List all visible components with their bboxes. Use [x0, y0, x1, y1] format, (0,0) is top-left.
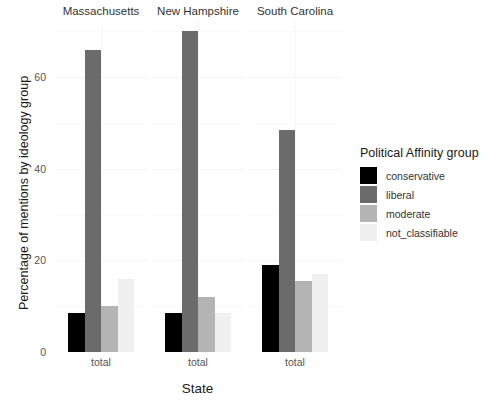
legend-swatch-liberal: [360, 186, 377, 203]
legend-items: conservativeliberalmoderatenot_classifia…: [360, 166, 479, 242]
legend-label: not_classifiable: [386, 227, 458, 239]
panel-plot-area: [55, 22, 147, 352]
bar-not_classifiable: [118, 279, 135, 352]
legend-item-conservative[interactable]: conservative: [360, 166, 479, 185]
legend-swatch-not_classifiable: [360, 224, 377, 241]
panel-new-hampshire: New Hampshiretotal: [152, 22, 244, 352]
bar-conservative: [68, 313, 85, 352]
legend-item-liberal[interactable]: liberal: [360, 185, 479, 204]
legend-item-moderate[interactable]: moderate: [360, 204, 479, 223]
bar-liberal: [182, 31, 199, 352]
legend: Political Affinity group conservativelib…: [360, 146, 479, 242]
faceted-bar-chart: Percentage of mentions by ideology group…: [0, 0, 500, 409]
panel-massachusetts: Massachusettstotal: [55, 22, 147, 352]
panel-strip-label: Massachusetts: [55, 2, 147, 20]
legend-swatch-moderate: [360, 205, 377, 222]
legend-label: moderate: [386, 208, 430, 220]
gridline-vertical: [101, 22, 102, 352]
bar-moderate: [198, 297, 215, 352]
y-axis-tick-60: 60: [20, 71, 46, 83]
bar-not_classifiable: [215, 313, 232, 352]
panel-x-tick-label: total: [249, 356, 341, 368]
y-axis-tick-20: 20: [20, 254, 46, 266]
panel-south-carolina: South Carolinatotal: [249, 22, 341, 352]
x-axis-title: State: [55, 381, 340, 396]
bar-moderate: [101, 306, 118, 352]
panel-x-tick-label: total: [152, 356, 244, 368]
bar-liberal: [85, 50, 102, 353]
bar-conservative: [262, 265, 279, 352]
panel-plot-area: [152, 22, 244, 352]
legend-swatch-conservative: [360, 167, 377, 184]
panel-strip-label: South Carolina: [249, 2, 341, 20]
bar-not_classifiable: [312, 274, 329, 352]
bar-liberal: [279, 130, 296, 352]
legend-label: liberal: [386, 189, 414, 201]
legend-label: conservative: [386, 170, 445, 182]
bar-conservative: [165, 313, 182, 352]
panel-strip-label: New Hampshire: [152, 2, 244, 20]
legend-item-not_classifiable[interactable]: not_classifiable: [360, 223, 479, 242]
y-axis-tick-0: 0: [20, 346, 46, 358]
y-axis-tick-40: 40: [20, 163, 46, 175]
legend-title: Political Affinity group: [360, 146, 479, 160]
bar-moderate: [295, 281, 312, 352]
panel-plot-area: [249, 22, 341, 352]
panel-x-tick-label: total: [55, 356, 147, 368]
y-axis-tick-labels: 0204060: [20, 0, 46, 409]
